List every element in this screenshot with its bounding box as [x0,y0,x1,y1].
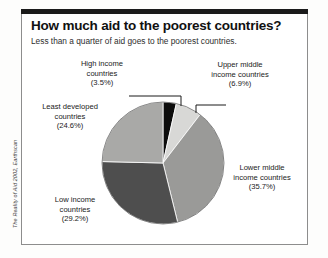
leader-line-upper-middle [196,105,226,113]
slice-label-low-income: Low income countries (29.2%) [32,195,118,224]
slice-label-least-developed-line2: countries [55,112,86,121]
slice-label-high-income-line2: countries [87,69,118,78]
slice-label-high-income-pct: (3.5%) [60,78,144,88]
slice-label-upper-middle-line1: Upper middle [217,60,262,69]
slice-label-least-developed-pct: (24.6%) [22,121,118,131]
slice-label-upper-middle: Upper middle income countries (6.9%) [192,60,288,89]
slice-label-high-income-line1: High income [81,59,123,68]
slice-label-low-income-line2: countries [60,205,91,214]
slice-label-upper-middle-pct: (6.9%) [192,79,288,89]
slice-label-lower-middle: Lower middle income countries (35.7%) [214,163,310,192]
slice-label-least-developed-line1: Least developed [42,102,98,111]
figure-page: The Reality of Aid 2002, Earthscan How m… [0,0,328,258]
slice-label-lower-middle-line1: Lower middle [239,163,284,172]
source-credit: The Reality of Aid 2002, Earthscan [12,98,18,228]
slice-label-lower-middle-pct: (35.7%) [214,182,310,192]
pie-slices [102,102,224,224]
slice-label-lower-middle-line2: income countries [233,173,290,182]
slice-label-low-income-pct: (29.2%) [32,214,118,224]
slice-label-low-income-line1: Low income [55,195,96,204]
slice-label-upper-middle-line2: income countries [211,70,268,79]
slice-label-least-developed: Least developed countries (24.6%) [22,102,118,131]
slice-label-high-income: High income countries (3.5%) [60,59,144,88]
